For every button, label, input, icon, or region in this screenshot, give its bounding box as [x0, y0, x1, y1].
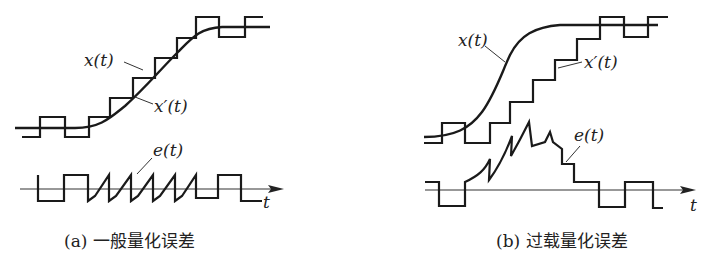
panel-b-signal-leader: [485, 46, 505, 62]
panel-b-staircase-label: x′(t): [584, 52, 618, 72]
panel-a-staircase-label: x′(t): [154, 96, 188, 116]
panel-a-signal-leader: [124, 62, 143, 70]
panel-b-error-signal: [425, 122, 663, 208]
panel-a-time-label: t: [263, 192, 270, 212]
panel-b-signal-label: x(t): [458, 30, 488, 50]
panel-b-caption: (b) 过载量化误差: [496, 231, 628, 251]
panel-a: x(t) x′(t) t e(t) (a) 一般量化误差: [15, 17, 284, 251]
panel-a-error-label: e(t): [153, 140, 183, 160]
panel-a-staircase-leader: [135, 97, 153, 104]
panel-b-staircase-leader: [558, 62, 582, 68]
panel-a-error-leader: [137, 158, 152, 174]
panel-a-signal-label: x(t): [84, 50, 114, 70]
panel-b-error-label: e(t): [574, 125, 604, 145]
panel-a-caption: (a) 一般量化误差: [64, 231, 195, 251]
panel-b-time-label: t: [690, 195, 697, 215]
panel-b: x(t) x′(t) t e(t) (b) 过载量化误差: [424, 17, 697, 251]
panel-a-staircase: [22, 17, 263, 137]
panel-b-error-leader: [566, 146, 580, 162]
quantization-error-figure: x(t) x′(t) t e(t) (a) 一般量化误差 x(t) x′(t) …: [0, 0, 707, 263]
panel-a-error-signal: [38, 175, 262, 201]
